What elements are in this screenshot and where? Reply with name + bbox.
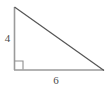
vertical-leg-label: 4	[2, 33, 13, 44]
right-triangle-figure: 4 6	[0, 0, 109, 91]
hypotenuse-line	[15, 7, 105, 71]
right-angle-marker-icon	[15, 61, 24, 70]
horizontal-leg-label: 6	[49, 75, 63, 86]
